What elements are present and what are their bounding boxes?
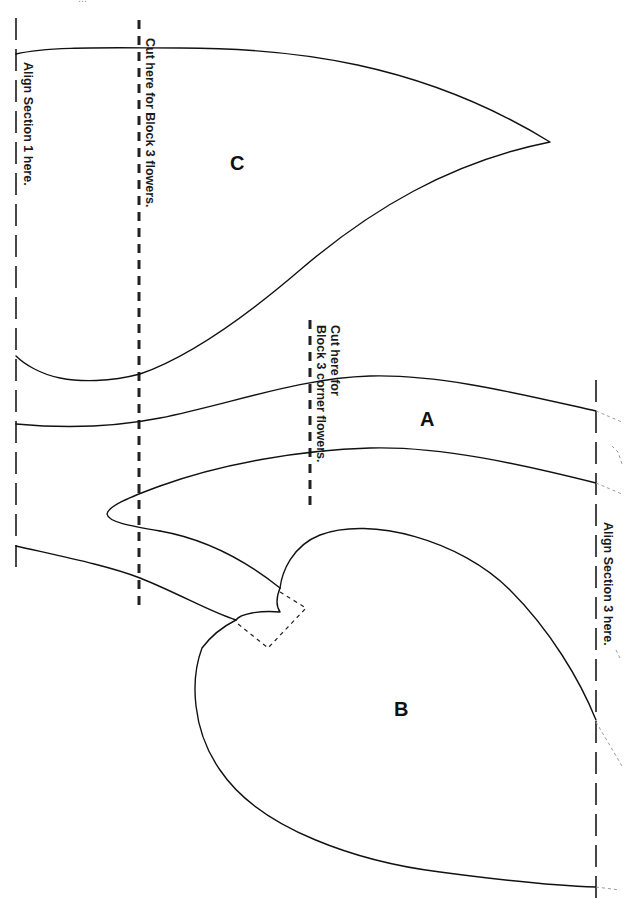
- label-cut-corner-line1: Cut here for: [328, 325, 342, 396]
- piece-b-outline-notch: [195, 588, 596, 887]
- seam-allowance-notch: [238, 592, 306, 648]
- piece-label-a: A: [420, 408, 434, 430]
- piece-b-stem-lower: [16, 546, 236, 620]
- piece-b-outline: [280, 529, 596, 720]
- continuation-b-top: [596, 722, 622, 766]
- continuation-mark-1: [612, 446, 622, 464]
- continuation-mark-2: [616, 650, 620, 658]
- piece-a-top-edge: [16, 376, 596, 427]
- continuation-a-bottom: [596, 483, 622, 494]
- label-align-section-3: Align Section 3 here.: [601, 522, 615, 646]
- label-cut-block3-flowers: Cut here for Block 3 flowers.: [143, 38, 157, 207]
- piece-a-bottom-edge: [107, 448, 596, 531]
- piece-c-outline: [16, 48, 550, 381]
- piece-label-c: C: [230, 152, 244, 174]
- label-align-section-1: Align Section 1 here.: [21, 62, 35, 186]
- label-cut-corner-line2: Block 3 corner flowers.: [314, 325, 328, 463]
- pattern-sheet: Align Section 1 here. Cut here for Block…: [0, 0, 629, 899]
- piece-b-stem-upper: [160, 531, 280, 588]
- continuation-b-bottom: [596, 887, 620, 890]
- continuation-a-top: [596, 411, 622, 422]
- piece-label-b: B: [394, 698, 408, 720]
